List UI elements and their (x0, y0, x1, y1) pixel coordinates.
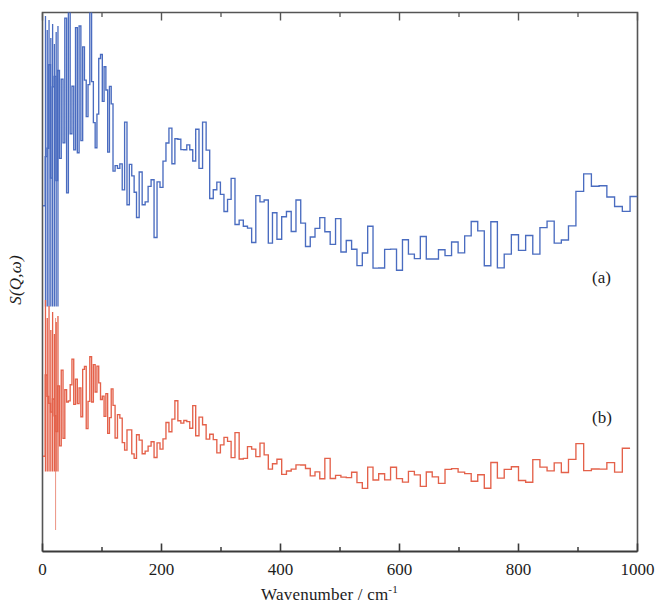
x-tick-label: 800 (506, 560, 532, 580)
x-axis-title-superscript: -1 (388, 583, 398, 595)
series-label-b: (b) (592, 408, 612, 428)
trace-a (43, 10, 637, 271)
trace-b (43, 357, 630, 489)
spectrum-plot (0, 0, 659, 609)
x-tick-label: 400 (268, 560, 294, 580)
spectrum-traces (43, 10, 637, 530)
x-tick-label: 600 (387, 560, 413, 580)
x-tick-label: 200 (149, 560, 175, 580)
x-tick-label: 0 (38, 560, 47, 580)
y-axis-title: S(Q,ω) (6, 230, 26, 330)
series-label-a: (a) (592, 268, 611, 288)
chart-figure: Wavenumber / cm-1 S(Q,ω) (a) (b) 0200400… (0, 0, 659, 609)
x-axis-title-text: Wavenumber / cm (261, 585, 388, 604)
x-tick-label: 1000 (621, 560, 655, 580)
x-axis-title: Wavenumber / cm-1 (0, 585, 659, 605)
